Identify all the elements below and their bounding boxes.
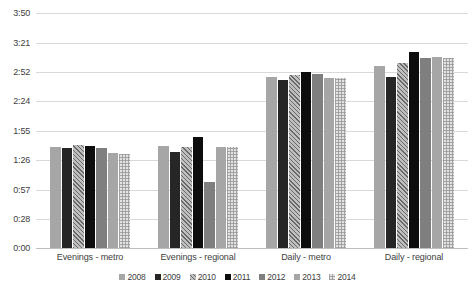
bar[interactable] bbox=[397, 63, 408, 248]
legend-label: 2008 bbox=[127, 272, 145, 282]
bar[interactable] bbox=[443, 58, 454, 248]
bar[interactable] bbox=[204, 182, 215, 248]
bar[interactable] bbox=[312, 74, 323, 248]
axis-baseline bbox=[36, 248, 468, 249]
bar[interactable] bbox=[386, 77, 397, 248]
y-axis: 0:000:280:571:261:552:242:523:213:50 bbox=[0, 13, 34, 248]
bar-group bbox=[252, 13, 360, 248]
y-axis-tick-label: 2:24 bbox=[13, 96, 30, 106]
y-axis-tick-label: 2:52 bbox=[13, 67, 30, 77]
legend-label: 2009 bbox=[163, 272, 181, 282]
legend-item[interactable]: 2009 bbox=[155, 272, 181, 282]
bar[interactable] bbox=[119, 154, 130, 248]
bar-group bbox=[144, 13, 252, 248]
category-label: Evenings - regional bbox=[144, 252, 252, 262]
category-label: Daily - regional bbox=[360, 252, 468, 262]
plot-area bbox=[36, 13, 468, 248]
y-axis-tick-label: 1:55 bbox=[13, 126, 30, 136]
bar[interactable] bbox=[96, 148, 107, 248]
legend-item[interactable]: 2013 bbox=[294, 272, 320, 282]
bar[interactable] bbox=[266, 77, 277, 248]
bar[interactable] bbox=[432, 57, 443, 248]
bar[interactable] bbox=[301, 72, 312, 248]
category-label: Evenings - metro bbox=[36, 252, 144, 262]
legend-swatch-icon bbox=[225, 274, 231, 280]
y-axis-tick-label: 3:21 bbox=[13, 38, 30, 48]
bar-slots bbox=[374, 13, 454, 248]
legend-item[interactable]: 2014 bbox=[329, 272, 355, 282]
bar[interactable] bbox=[193, 137, 204, 248]
bar[interactable] bbox=[85, 146, 96, 248]
bar-slots bbox=[158, 13, 238, 248]
bar[interactable] bbox=[324, 78, 335, 248]
bar[interactable] bbox=[227, 147, 238, 248]
bar[interactable] bbox=[420, 58, 431, 248]
legend-label: 2012 bbox=[267, 272, 285, 282]
legend-swatch-icon bbox=[155, 274, 161, 280]
legend-item[interactable]: 2011 bbox=[225, 272, 250, 282]
bar[interactable] bbox=[181, 147, 192, 248]
y-axis-tick-label: 1:26 bbox=[13, 155, 30, 165]
legend-item[interactable]: 2008 bbox=[119, 272, 145, 282]
bar[interactable] bbox=[73, 145, 84, 248]
legend-item[interactable]: 2012 bbox=[259, 272, 285, 282]
bar[interactable] bbox=[278, 80, 289, 248]
bar[interactable] bbox=[50, 147, 61, 248]
category-axis-labels: Evenings - metroEvenings - regionalDaily… bbox=[36, 252, 468, 262]
bar[interactable] bbox=[409, 52, 420, 248]
legend-label: 2011 bbox=[233, 272, 250, 282]
bar[interactable] bbox=[170, 152, 181, 248]
bar[interactable] bbox=[374, 66, 385, 248]
bar[interactable] bbox=[335, 78, 346, 248]
legend-swatch-icon bbox=[259, 274, 265, 280]
bar[interactable] bbox=[62, 148, 73, 248]
bar-chart: 0:000:280:571:261:552:242:523:213:50 Eve… bbox=[0, 0, 475, 293]
legend-swatch-icon bbox=[329, 274, 335, 280]
y-axis-tick-label: 0:57 bbox=[13, 185, 30, 195]
bar[interactable] bbox=[216, 147, 227, 248]
y-axis-tick-label: 0:28 bbox=[13, 214, 30, 224]
legend-item[interactable]: 2010 bbox=[190, 272, 216, 282]
legend-label: 2013 bbox=[302, 272, 320, 282]
bar-groups bbox=[36, 13, 468, 248]
legend-swatch-icon bbox=[190, 274, 196, 280]
bar[interactable] bbox=[158, 146, 169, 248]
category-label: Daily - metro bbox=[252, 252, 360, 262]
bar-group bbox=[360, 13, 468, 248]
bar[interactable] bbox=[108, 153, 119, 248]
bar-slots bbox=[266, 13, 346, 248]
legend-label: 2010 bbox=[198, 272, 216, 282]
chart-legend: 2008200920102011201220132014 bbox=[0, 272, 475, 282]
bar[interactable] bbox=[289, 75, 300, 248]
y-axis-tick-label: 0:00 bbox=[13, 243, 30, 253]
y-axis-tick-label: 3:50 bbox=[13, 8, 30, 18]
legend-label: 2014 bbox=[337, 272, 355, 282]
bar-slots bbox=[50, 13, 130, 248]
legend-swatch-icon bbox=[294, 274, 300, 280]
bar-group bbox=[36, 13, 144, 248]
legend-swatch-icon bbox=[119, 274, 125, 280]
